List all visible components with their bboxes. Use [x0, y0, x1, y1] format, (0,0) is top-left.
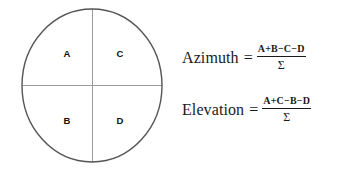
figure-quadrant-detector-formulas: A C B D Azimuth = A+B−C−D Σ Elevation = … — [0, 0, 346, 171]
quadrant-detector-diagram: A C B D — [0, 0, 173, 171]
azimuth-label: Azimuth — [182, 49, 239, 67]
elevation-equation: Elevation = A+C−B−D Σ — [182, 96, 311, 123]
formula-block: Azimuth = A+B−C−D Σ Elevation = A+C−B−D … — [180, 0, 346, 171]
elevation-numerator: A+C−B−D — [262, 96, 311, 108]
quadrant-label-c: C — [117, 48, 124, 59]
elevation-label: Elevation — [182, 101, 244, 119]
elevation-fraction: A+C−B−D Σ — [262, 96, 311, 123]
azimuth-equation: Azimuth = A+B−C−D Σ — [182, 44, 306, 71]
elevation-equals-sign: = — [249, 101, 258, 119]
elevation-denominator: Σ — [283, 109, 290, 123]
azimuth-fraction: A+B−C−D Σ — [257, 44, 306, 71]
quadrant-label-b: B — [64, 115, 71, 126]
quadrant-label-d: D — [117, 115, 124, 126]
azimuth-equals-sign: = — [244, 49, 253, 67]
azimuth-denominator: Σ — [278, 57, 285, 71]
quadrant-label-a: A — [64, 48, 71, 59]
azimuth-numerator: A+B−C−D — [257, 44, 306, 56]
